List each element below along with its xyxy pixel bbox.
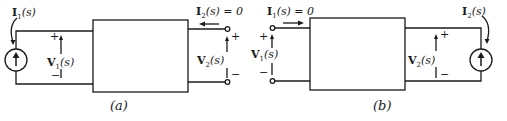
arrow-right-icon: [298, 21, 304, 26]
plus-sign: +: [231, 30, 240, 43]
label-i1-zero-b: I1(s) = 0: [267, 5, 314, 20]
v1-arrow-up-icon: [59, 35, 63, 40]
i2-leader-b: [482, 16, 489, 41]
label-v2-b: V2(s): [407, 54, 435, 69]
label-i2-source-b: I2(s): [462, 5, 486, 20]
plus-sign: +: [440, 28, 449, 41]
v2-arrow-up-icon: [225, 36, 229, 41]
minus-sign: −: [51, 69, 60, 82]
minus-sign: −: [440, 68, 449, 81]
two-port-box-b: [310, 18, 405, 90]
terminal-a-top: [225, 27, 230, 32]
terminal-b-bottom: [270, 79, 275, 84]
arrow-up-icon: [13, 52, 20, 58]
label-v2-a: V2(s): [196, 54, 224, 69]
two-port-box-a: [93, 20, 188, 92]
label-i2-zero-a: I2(s) = 0: [196, 5, 243, 20]
arrow-left-icon: [199, 22, 205, 27]
label-v1-b: V1(s): [250, 48, 278, 63]
arrow-up-icon: [478, 52, 485, 58]
v2-arrow-up-icon: [434, 34, 438, 39]
caption-a: (a): [110, 98, 128, 113]
minus-sign: −: [259, 66, 268, 79]
plus-sign: +: [259, 30, 268, 43]
leader-arrow-icon: [11, 40, 16, 45]
caption-b: (b): [373, 98, 391, 113]
plus-sign: +: [50, 30, 59, 43]
figure-b-circuit: [270, 16, 492, 90]
leader-arrow-icon: [485, 39, 490, 44]
v1-arrow-up-icon: [270, 34, 274, 39]
two-port-diagram: I1(s) + V1(s) − I2(s) = 0 + V2(s) − (a) …: [0, 0, 507, 121]
minus-sign: −: [231, 68, 240, 81]
terminal-a-bottom: [225, 80, 230, 85]
label-i1-source-a: I1(s): [12, 6, 36, 21]
terminal-b-top: [270, 26, 275, 31]
